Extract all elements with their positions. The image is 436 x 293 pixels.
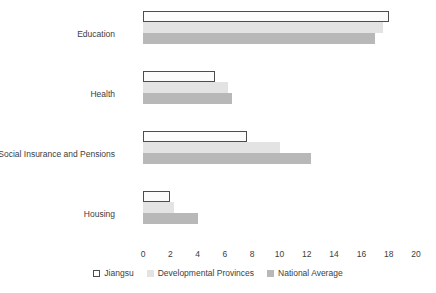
x-tick-label-8: 8 xyxy=(250,249,255,259)
bar-housing-developmental-provinces xyxy=(143,202,174,213)
bar-social-insurance-and-pensions-developmental-provinces xyxy=(143,142,280,153)
x-axis: 02468101214161820 xyxy=(143,249,416,263)
legend-swatch-national-average xyxy=(267,270,274,277)
legend-label-jiangsu: Jiangsu xyxy=(104,268,133,278)
x-tick-label-12: 12 xyxy=(302,249,311,259)
x-tick-label-16: 16 xyxy=(357,249,366,259)
bar-group-health xyxy=(143,71,416,119)
x-tick-label-18: 18 xyxy=(384,249,393,259)
bar-health-national-average xyxy=(143,93,232,104)
x-tick-label-2: 2 xyxy=(168,249,173,259)
x-tick-label-20: 20 xyxy=(411,249,420,259)
legend-swatch-developmental-provinces xyxy=(147,270,154,277)
legend-item-jiangsu: Jiangsu xyxy=(93,268,133,278)
x-tick-label-6: 6 xyxy=(223,249,228,259)
category-label-housing: Housing xyxy=(84,209,115,219)
legend-label-national-average: National Average xyxy=(278,268,343,278)
legend-label-developmental-provinces: Developmental Provinces xyxy=(158,268,254,278)
legend-item-developmental-provinces: Developmental Provinces xyxy=(147,268,254,278)
bar-health-developmental-provinces xyxy=(143,82,228,93)
bar-group-education xyxy=(143,11,416,59)
bar-social-insurance-and-pensions-jiangsu xyxy=(143,131,247,142)
bar-chart: Education Health Social Insurance and Pe… xyxy=(0,0,436,293)
bar-education-national-average xyxy=(143,33,375,44)
bar-group-social-insurance-and-pensions xyxy=(143,131,416,179)
category-label-social-insurance-and-pensions: Social Insurance and Pensions xyxy=(0,149,115,159)
bar-group-housing xyxy=(143,191,416,239)
bar-education-jiangsu xyxy=(143,11,389,22)
legend-swatch-jiangsu xyxy=(93,270,100,277)
x-tick-label-4: 4 xyxy=(195,249,200,259)
category-label-education: Education xyxy=(77,29,115,39)
plot-area: Education Health Social Insurance and Pe… xyxy=(143,5,416,245)
x-tick-label-10: 10 xyxy=(275,249,284,259)
x-tick-label-14: 14 xyxy=(329,249,338,259)
bar-social-insurance-and-pensions-national-average xyxy=(143,153,311,164)
bar-housing-national-average xyxy=(143,213,198,224)
chart-legend: Jiangsu Developmental Provinces National… xyxy=(0,268,436,278)
category-label-health: Health xyxy=(90,89,115,99)
bar-health-jiangsu xyxy=(143,71,215,82)
bar-education-developmental-provinces xyxy=(143,22,383,33)
x-tick-label-0: 0 xyxy=(141,249,146,259)
legend-item-national-average: National Average xyxy=(267,268,343,278)
bar-housing-jiangsu xyxy=(143,191,170,202)
